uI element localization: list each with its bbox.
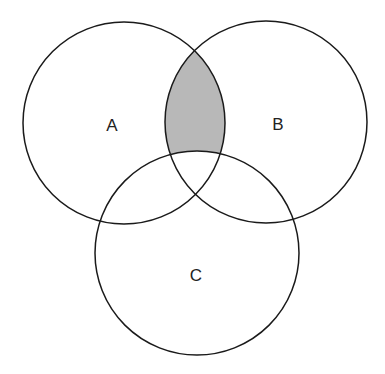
label-a: A [106,116,118,135]
label-b: B [272,115,283,134]
label-c: C [190,266,202,285]
venn-diagram: A B C [0,0,385,374]
